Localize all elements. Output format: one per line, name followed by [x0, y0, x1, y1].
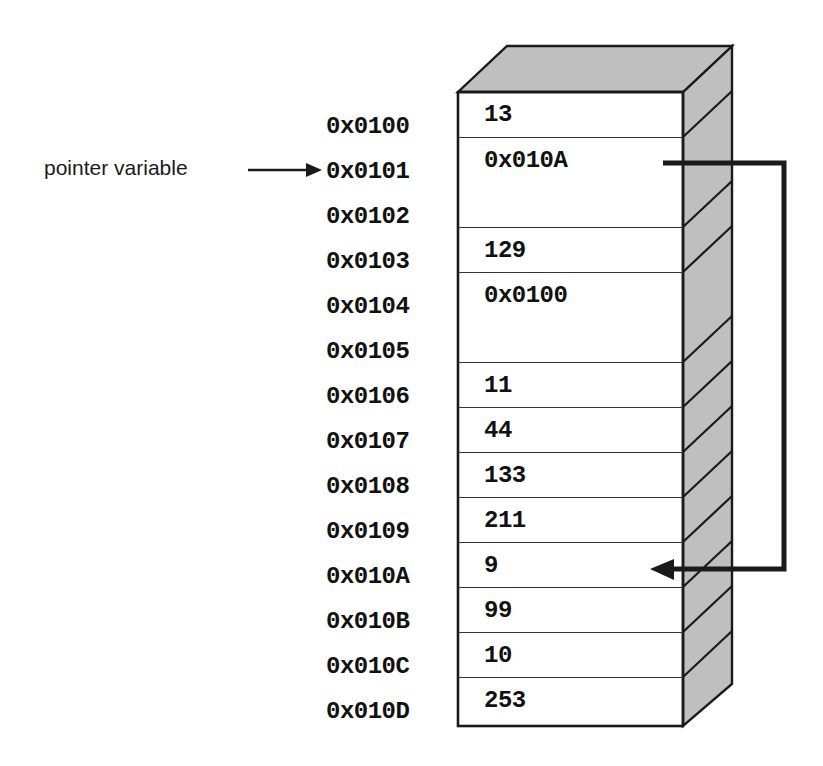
memory-cell-value: 11: [484, 363, 683, 408]
memory-cell-list: 130x010A1290x0100114413321199910253: [458, 92, 683, 726]
address-label: 0x010D: [326, 689, 450, 734]
pointer-memory-diagram: pointer variable 0x01000x01010x01020x010…: [0, 0, 823, 766]
memory-cell: 11: [458, 362, 683, 407]
memory-cell: 10: [458, 632, 683, 677]
memory-cell: 211: [458, 497, 683, 542]
address-label: 0x010B: [326, 599, 450, 644]
annotation-right-arrow-icon: [248, 152, 326, 192]
memory-cell: 13: [458, 92, 683, 137]
address-label: 0x0103: [326, 239, 450, 284]
memory-cell-value: 99: [484, 588, 683, 633]
memory-cell: 129: [458, 227, 683, 272]
memory-cell: 44: [458, 407, 683, 452]
memory-cell-value: 44: [484, 408, 683, 453]
memory-cell-value: 0x0100: [484, 273, 683, 318]
address-label: 0x0109: [326, 509, 450, 554]
address-label: 0x0102: [326, 194, 450, 239]
memory-cell: 133: [458, 452, 683, 497]
address-label: 0x0107: [326, 419, 450, 464]
memory-cell: 0x0100: [458, 272, 683, 362]
address-label: 0x0104: [326, 284, 450, 329]
pointer-variable-label: pointer variable: [44, 156, 188, 180]
memory-cell-value: 253: [484, 678, 683, 723]
memory-cell-value: 10: [484, 633, 683, 678]
address-label: 0x0105: [326, 329, 450, 374]
address-label: 0x0108: [326, 464, 450, 509]
memory-cell: 0x010A: [458, 137, 683, 227]
memory-cell-value: 0x010A: [484, 138, 683, 183]
memory-cell-value: 133: [484, 453, 683, 498]
memory-cell: 99: [458, 587, 683, 632]
memory-cell: 253: [458, 677, 683, 722]
memory-cell-value: 13: [484, 92, 683, 137]
memory-block: 130x010A1290x0100114413321199910253: [450, 38, 750, 738]
address-label: 0x0100: [326, 104, 450, 149]
address-label: 0x0101: [326, 149, 450, 194]
address-label: 0x0106: [326, 374, 450, 419]
address-label: 0x010A: [326, 554, 450, 599]
address-label: 0x010C: [326, 644, 450, 689]
memory-cell-value: 211: [484, 498, 683, 543]
memory-cell: 9: [458, 542, 683, 587]
memory-cell-value: 9: [484, 543, 683, 588]
memory-cell-value: 129: [484, 228, 683, 273]
